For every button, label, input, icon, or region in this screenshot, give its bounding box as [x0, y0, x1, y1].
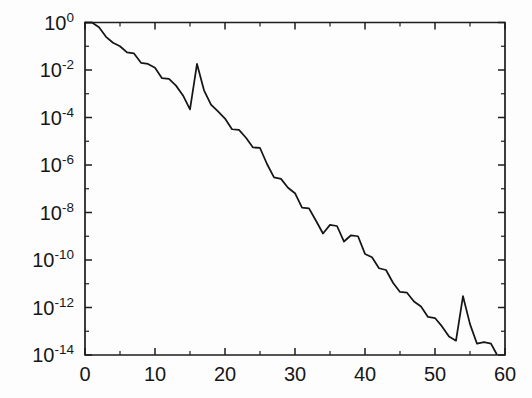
x-tick-label: 60	[494, 363, 516, 385]
y-tick-label: 10-6	[40, 152, 74, 176]
data-series-group	[85, 23, 497, 355]
x-tick-label: 40	[354, 363, 376, 385]
y-tick-label: 10-10	[32, 247, 74, 271]
y-tick-label: 100	[44, 10, 74, 34]
y-tick-label: 10-14	[32, 342, 74, 366]
y-axis-major-ticks	[85, 23, 505, 356]
y-axis-tick-labels: 10010-210-410-610-810-1010-1210-14	[32, 10, 74, 367]
x-tick-label: 20	[214, 363, 236, 385]
y-tick-label: 10-8	[40, 200, 74, 224]
plot-axes	[85, 23, 505, 356]
y-tick-label: 10-4	[40, 105, 75, 129]
x-axis-major-ticks	[85, 23, 505, 356]
convergence-chart: 10010-210-410-610-810-1010-1210-14 01020…	[0, 0, 532, 398]
y-axis-minor-ticks	[85, 46, 505, 331]
x-tick-label: 0	[79, 363, 90, 385]
x-tick-label: 10	[144, 363, 166, 385]
y-tick-label: 10-12	[32, 295, 74, 319]
series-line-residual	[85, 23, 497, 355]
x-tick-label: 30	[284, 363, 306, 385]
y-tick-label: 10-2	[40, 57, 74, 81]
axis-frame	[85, 23, 505, 356]
x-tick-label: 50	[424, 363, 446, 385]
chart-screenshot: 10010-210-410-610-810-1010-1210-14 01020…	[0, 0, 532, 398]
x-axis-minor-ticks	[120, 23, 470, 356]
x-axis-tick-labels: 0102030405060	[79, 363, 516, 385]
